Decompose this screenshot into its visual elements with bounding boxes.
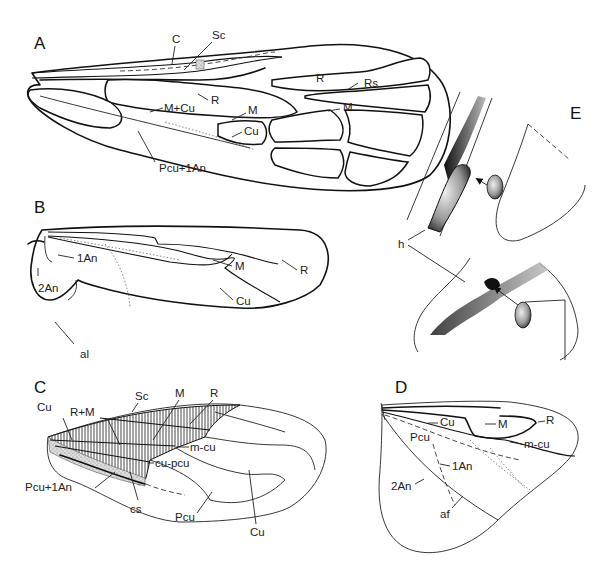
vein-m-cu-b <box>48 236 280 302</box>
label-cs: cs <box>130 503 142 515</box>
vein-m-distal <box>205 437 315 470</box>
panel-letter-b: B <box>34 198 45 217</box>
leader-h-lower <box>408 245 465 282</box>
label-pcu-1an-c: Pcu+1An <box>25 481 72 493</box>
leader-r-b <box>282 260 297 270</box>
cell-m4 <box>345 152 408 186</box>
label-r-c: R <box>210 387 218 399</box>
label-cu: Cu <box>244 125 259 137</box>
leader-al <box>55 322 74 344</box>
e-right-lobe <box>496 124 585 241</box>
leader-sc-c <box>132 403 138 412</box>
panel-letter-c: C <box>34 378 46 397</box>
label-m-cu-d: m-cu <box>524 438 550 450</box>
leader-2an-d <box>415 479 424 484</box>
label-r: R <box>211 94 219 106</box>
label-r-m: R+M <box>70 406 95 418</box>
label-r-d: R <box>546 414 554 426</box>
panel-d: D Cu M R Pcu m-cu 1An 2An af <box>379 378 578 553</box>
e-knob-lower <box>515 302 531 328</box>
vein-r-distal <box>215 412 285 432</box>
vein-m-b <box>48 237 232 265</box>
leader-h-upper <box>408 230 425 240</box>
pterostigma <box>196 60 204 69</box>
vein-m-d <box>382 410 536 438</box>
label-rs: Rs <box>364 77 378 89</box>
label-h: h <box>398 238 404 250</box>
label-sc: Sc <box>212 29 226 41</box>
dashed-c <box>146 484 185 495</box>
label-m-cu: M+Cu <box>164 102 195 114</box>
label-r-distal: R <box>316 72 324 84</box>
dotted-d1 <box>470 440 530 490</box>
leader-1an <box>58 255 74 258</box>
e-plate <box>525 300 565 360</box>
label-2an: 2An <box>38 282 58 294</box>
panel-e: E h <box>398 92 585 360</box>
e-right-lobe-dash <box>528 124 570 160</box>
anal-fold-d <box>382 414 498 520</box>
panel-letter-a: A <box>34 34 46 53</box>
label-m-c: M <box>175 387 185 399</box>
costa-d <box>382 406 500 408</box>
leader-cu-b <box>220 288 233 300</box>
panel-b: B 1An 2An M R Cu al <box>28 198 328 360</box>
leader-r-d <box>538 421 545 422</box>
label-m-b: M <box>235 260 245 272</box>
panel-letter-e: E <box>570 104 581 123</box>
cell-basal <box>105 80 297 118</box>
e-lower-body-left <box>414 258 470 352</box>
e-arrow-upper <box>477 179 487 185</box>
cell-cu <box>218 121 267 145</box>
label-2an-d: 2An <box>391 480 411 492</box>
costa-vein <box>32 56 282 73</box>
wing-b-outline <box>31 226 328 308</box>
label-r-b: R <box>300 264 308 276</box>
figure-canvas: A C Sc R R Rs M+Cu M <box>0 0 606 579</box>
leader-af <box>452 496 463 508</box>
label-al: al <box>80 348 89 360</box>
leader-pcu-c <box>197 492 212 513</box>
cell-m2 <box>345 110 423 156</box>
label-cu-d: Cu <box>440 416 455 428</box>
label-af: af <box>440 508 450 520</box>
panel-a: A C Sc R R Rs M+Cu M <box>28 29 451 191</box>
vein-2an-d <box>433 444 455 505</box>
leader-c <box>172 46 175 64</box>
label-cu-pcu: cu-pcu <box>155 457 190 469</box>
leader-1an-d <box>440 464 450 466</box>
cell-m3 <box>271 148 343 178</box>
label-m-2: M <box>343 101 353 113</box>
label-cu-c-distal: Cu <box>250 526 265 538</box>
label-m: M <box>248 104 258 116</box>
label-cu-b: Cu <box>236 295 251 307</box>
leader-m-b <box>213 260 232 266</box>
label-pcu-c: Pcu <box>175 511 195 523</box>
panel-letter-d: D <box>395 378 407 397</box>
label-1an: 1An <box>77 252 97 264</box>
label-pcu-1an: Pcu+1An <box>159 162 206 174</box>
label-m-cu-c: m-cu <box>190 441 216 453</box>
leader-cu-c-distal <box>249 470 256 524</box>
dotted-d2 <box>490 448 525 488</box>
label-c: C <box>172 33 180 45</box>
e-lower-body-right <box>540 264 578 360</box>
e-muscle-band <box>430 262 548 335</box>
label-sc-c: Sc <box>135 390 149 402</box>
vein-1an-b <box>45 236 52 262</box>
label-1an-d: 1An <box>452 460 472 472</box>
label-m-d: M <box>498 418 508 430</box>
label-cu-c: Cu <box>37 401 52 413</box>
panel-c: C R+M Sc M R Cu m-cu cu-pcu Pcu+1An <box>25 378 326 538</box>
label-pcu-d: Pcu <box>410 431 430 443</box>
cell-r <box>272 58 430 91</box>
e-knob-upper <box>487 175 503 199</box>
